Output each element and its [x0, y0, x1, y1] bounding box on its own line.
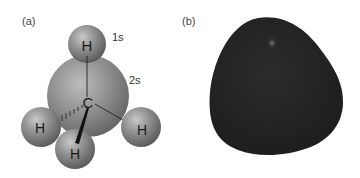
- atom-label-top-h: H: [82, 37, 93, 54]
- atom-label-right-h: H: [137, 122, 147, 138]
- density-blob: [210, 17, 344, 155]
- atom-label-carbon: C: [83, 94, 94, 111]
- orbital-label-2s: 2s: [129, 74, 141, 86]
- ball-model: H C H H H 1s 2s: [21, 25, 161, 169]
- atom-label-left-h: H: [35, 120, 45, 136]
- methane-diagram: H C H H H 1s 2s: [0, 0, 360, 178]
- electron-density-surface: [210, 17, 344, 155]
- density-highlight: [267, 37, 277, 49]
- orbital-label-1s: 1s: [112, 31, 124, 43]
- atom-label-bottom-h: H: [70, 146, 80, 162]
